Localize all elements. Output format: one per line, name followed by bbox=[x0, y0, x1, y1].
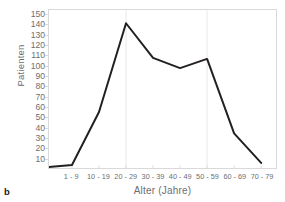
x-tick-label: 70 - 79 bbox=[251, 172, 274, 181]
y-tick-label: 90 bbox=[1, 72, 45, 81]
y-tick-label: 10 bbox=[1, 154, 45, 163]
figure-panel-b: Patienten 102030405060708090100110120130… bbox=[0, 0, 285, 202]
data-series-line bbox=[49, 10, 276, 168]
y-tick-label: 140 bbox=[1, 20, 45, 29]
panel-letter: b bbox=[4, 186, 10, 197]
x-axis-tick-labels: 1 - 910 - 1920 - 2930 - 3940 - 4950 - 59… bbox=[48, 172, 277, 184]
y-tick-label: 110 bbox=[1, 51, 45, 60]
y-tick-label: 40 bbox=[1, 123, 45, 132]
y-tick-label: 30 bbox=[1, 134, 45, 143]
y-tick-label: 60 bbox=[1, 103, 45, 112]
y-tick-label: 20 bbox=[1, 144, 45, 153]
y-axis-tick-labels: 102030405060708090100110120130140150 bbox=[0, 9, 45, 169]
x-tick-label: 60 - 69 bbox=[223, 172, 246, 181]
y-tick-label: 150 bbox=[1, 10, 45, 19]
plot-area bbox=[48, 9, 277, 169]
y-tick-label: 80 bbox=[1, 82, 45, 91]
x-axis-title: Alter (Jahre) bbox=[48, 185, 277, 196]
y-tick-label: 50 bbox=[1, 113, 45, 122]
x-tick-label: 30 - 39 bbox=[142, 172, 165, 181]
x-tick-label: 20 - 29 bbox=[114, 172, 137, 181]
y-tick-label: 100 bbox=[1, 61, 45, 70]
x-tick-label: 40 - 49 bbox=[169, 172, 192, 181]
y-tick-label: 120 bbox=[1, 41, 45, 50]
x-tick-label: 50 - 59 bbox=[196, 172, 219, 181]
y-tick-label: 130 bbox=[1, 31, 45, 40]
y-tick-label: 70 bbox=[1, 92, 45, 101]
x-tick-label: 1 - 9 bbox=[64, 172, 79, 181]
x-tick-label: 10 - 19 bbox=[87, 172, 110, 181]
